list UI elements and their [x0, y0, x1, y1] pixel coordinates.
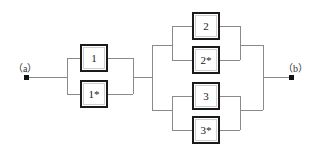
terminal-b-dot[interactable] — [289, 75, 294, 80]
block-2-star-label: 2* — [201, 55, 212, 66]
block-1-star-label: 1* — [89, 89, 100, 100]
block-3[interactable]: 3 — [192, 82, 220, 110]
block-3-label: 3 — [203, 91, 209, 102]
block-2[interactable]: 2 — [192, 12, 220, 40]
block-3-star-label: 3* — [201, 125, 212, 136]
block-2-star[interactable]: 2* — [192, 46, 220, 74]
block-1-star[interactable]: 1* — [80, 80, 108, 108]
block-1-label: 1 — [91, 53, 97, 64]
diagram-canvas: 1 1* 2 2* 3 3* （a） （b） — [0, 0, 322, 154]
terminal-a-dot[interactable] — [24, 75, 29, 80]
block-1[interactable]: 1 — [80, 44, 108, 72]
block-2-label: 2 — [203, 21, 209, 32]
terminal-a-label: （a） — [13, 60, 37, 75]
terminal-b-label: （b） — [283, 60, 308, 75]
block-3-star[interactable]: 3* — [192, 116, 220, 144]
wire-layer — [0, 0, 322, 154]
